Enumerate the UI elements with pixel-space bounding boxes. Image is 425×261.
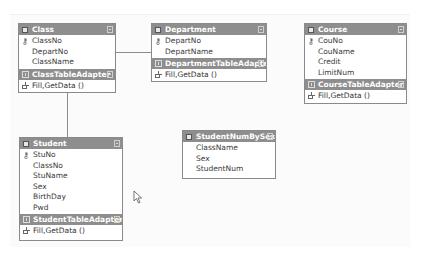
table-studentnumbysex-header[interactable]: StudentNumBySex	[183, 131, 275, 142]
column-departno[interactable]: ⚷DepartNo	[152, 36, 266, 47]
column-studentnum[interactable]: StudentNum	[183, 164, 275, 175]
query-icon	[23, 227, 30, 234]
primary-key-icon: ⚷	[23, 151, 29, 160]
adapter-class-header[interactable]: ClassTableAdapter	[19, 69, 115, 80]
table-icon	[23, 141, 29, 147]
collapse-icon[interactable]	[398, 81, 404, 88]
query-icon	[22, 82, 29, 89]
query-icon	[155, 71, 162, 78]
table-studentnumbysex[interactable]: StudentNumBySex ClassName Sex StudentNum	[182, 130, 276, 179]
column-couno[interactable]: ⚷CouNo	[305, 36, 406, 47]
column-birthday[interactable]: BirthDay	[20, 192, 122, 203]
table-department[interactable]: Department ⚷DepartNo DepartName Departme…	[151, 23, 267, 82]
collapse-icon[interactable]	[258, 60, 264, 67]
primary-key-icon: ⚷	[308, 37, 314, 46]
collapse-icon[interactable]	[267, 133, 273, 140]
table-icon	[155, 27, 161, 33]
column-pwd[interactable]: Pwd	[20, 203, 122, 214]
adapter-department-query[interactable]: Fill,GetData ()	[152, 69, 266, 80]
table-student[interactable]: Student ⚷StuNo ClassNo StuName Sex Birth…	[19, 137, 123, 241]
column-stuno[interactable]: ⚷StuNo	[20, 150, 122, 161]
relation-line-class-student[interactable]	[67, 92, 68, 137]
column-classname[interactable]: ClassName	[19, 57, 115, 68]
collapse-icon[interactable]	[107, 26, 113, 33]
column-classname[interactable]: ClassName	[183, 143, 275, 154]
column-classno[interactable]: ClassNo	[20, 161, 122, 172]
collapse-icon[interactable]	[258, 26, 264, 33]
collapse-icon[interactable]	[114, 140, 120, 147]
table-department-header[interactable]: Department	[152, 24, 266, 35]
column-credit[interactable]: Credit	[305, 57, 406, 68]
column-departname[interactable]: DepartName	[152, 47, 266, 58]
table-icon	[186, 134, 192, 140]
table-icon	[22, 27, 28, 33]
adapter-department-header[interactable]: DepartmentTableAdapter	[152, 58, 266, 69]
table-class-title: Class	[32, 25, 54, 34]
column-stuname[interactable]: StuName	[20, 171, 122, 182]
table-adapter-icon	[155, 60, 162, 67]
table-course-header[interactable]: Course	[305, 24, 406, 35]
table-class[interactable]: Class ⚷ClassNo DepartNo ClassName ClassT…	[18, 23, 116, 93]
column-sex[interactable]: Sex	[183, 154, 275, 165]
query-icon	[308, 92, 315, 99]
primary-key-icon: ⚷	[22, 37, 28, 46]
table-student-header[interactable]: Student	[20, 138, 122, 149]
table-adapter-icon	[308, 81, 315, 88]
adapter-class-query[interactable]: Fill,GetData ()	[19, 80, 115, 91]
mouse-cursor-icon	[133, 190, 143, 204]
table-course[interactable]: Course ⚷CouNo CouName Credit LimitNum Co…	[304, 23, 407, 104]
collapse-icon[interactable]	[107, 71, 113, 78]
table-icon	[308, 27, 314, 33]
collapse-icon[interactable]	[114, 216, 120, 223]
table-adapter-icon	[23, 216, 30, 223]
primary-key-icon: ⚷	[155, 37, 161, 46]
adapter-course-header[interactable]: CourseTableAdapter	[305, 79, 406, 90]
table-class-header[interactable]: Class	[19, 24, 115, 35]
adapter-student-query[interactable]: Fill,GetData ()	[20, 225, 122, 236]
column-sex[interactable]: Sex	[20, 182, 122, 193]
column-couname[interactable]: CouName	[305, 47, 406, 58]
column-limitnum[interactable]: LimitNum	[305, 68, 406, 79]
table-adapter-icon	[22, 71, 29, 78]
adapter-course-query[interactable]: Fill,GetData ()	[305, 90, 406, 101]
collapse-icon[interactable]	[398, 26, 404, 33]
column-classno[interactable]: ⚷ClassNo	[19, 36, 115, 47]
adapter-student-header[interactable]: StudentTableAdapter	[20, 214, 122, 225]
relation-line-class-department[interactable]	[116, 52, 151, 53]
column-departno[interactable]: DepartNo	[19, 47, 115, 58]
